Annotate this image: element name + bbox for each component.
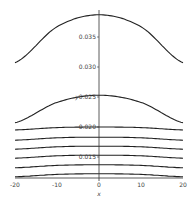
x-axis-label: x (96, 190, 101, 197)
y-tick-label: 0.020 (79, 123, 96, 130)
x-tick-label: 0 (97, 181, 101, 188)
y-tick-label: 0.015 (79, 153, 96, 160)
x-tick-label: -20 (10, 181, 20, 188)
line-chart: -20-1001020 0.0150.0200.0250.0300.035 x … (0, 0, 196, 204)
x-tick-label: -10 (52, 181, 62, 188)
y-tick-label: 0.025 (79, 93, 96, 100)
x-tick-labels: -20-1001020 (10, 181, 187, 188)
y-tick-labels: 0.0150.0200.0250.0300.035 (79, 33, 99, 160)
y-axis-label: y (74, 93, 79, 101)
x-tick-label: 20 (179, 181, 187, 188)
y-tick-label: 0.030 (79, 63, 96, 70)
y-tick-label: 0.035 (79, 33, 96, 40)
x-tick-label: 10 (137, 181, 145, 188)
